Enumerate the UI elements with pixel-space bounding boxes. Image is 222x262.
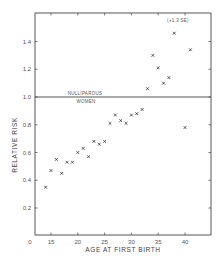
y-axis: 0.20.40.60.81.01.21.4	[23, 39, 211, 212]
x-tick-label: 15	[48, 239, 55, 245]
y-tick-label: 1.4	[23, 39, 32, 45]
y-tick-label: 1.0	[23, 94, 32, 100]
data-point	[114, 114, 117, 117]
data-point	[135, 112, 138, 115]
data-point	[71, 161, 74, 164]
reference-line-nulliparous: NULLIPAROUSWOMEN	[35, 91, 211, 104]
y-tick-label: 0.2	[23, 205, 32, 211]
plot-border	[35, 13, 211, 235]
x-tick-label: 35	[155, 239, 162, 245]
data-point	[173, 32, 176, 35]
reference-label-below: WOMEN	[76, 99, 95, 104]
x-origin-label: 0	[28, 239, 32, 245]
data-point	[44, 186, 47, 189]
y-axis-title: RELATIVE RISK	[11, 117, 18, 173]
y-tick-label: 0.6	[23, 150, 32, 156]
reference-label-above: NULLIPAROUS	[68, 91, 103, 96]
x-tick-label: 30	[128, 239, 135, 245]
data-point	[151, 54, 154, 57]
data-point	[125, 122, 128, 125]
data-point	[50, 169, 53, 172]
x-tick-label: 25	[101, 239, 108, 245]
data-point	[157, 66, 160, 69]
data-point	[98, 143, 101, 146]
data-point	[60, 172, 63, 175]
data-point	[168, 76, 171, 79]
data-point	[82, 147, 85, 150]
y-tick-label: 0.8	[23, 122, 32, 128]
data-point	[119, 119, 122, 122]
data-point	[130, 114, 133, 117]
data-points	[44, 32, 192, 189]
annotation-se: (+1.3 SE)	[167, 18, 189, 23]
scatter-chart: NULLIPAROUSWOMEN 1520253035400 0.20.40.6…	[0, 0, 222, 262]
data-point	[76, 151, 79, 154]
y-tick-label: 1.2	[23, 66, 32, 72]
data-point	[141, 108, 144, 111]
data-point	[66, 161, 69, 164]
data-point	[109, 122, 112, 125]
data-point	[146, 87, 149, 90]
data-point	[87, 155, 90, 158]
x-axis-title: AGE AT FIRST BIRTH	[85, 246, 160, 253]
x-tick-label: 20	[74, 239, 81, 245]
data-point	[55, 158, 58, 161]
data-point	[162, 82, 165, 85]
x-axis: 1520253035400	[28, 13, 189, 245]
x-tick-label: 40	[182, 239, 189, 245]
data-point	[92, 140, 95, 143]
data-point	[189, 48, 192, 51]
data-point	[103, 140, 106, 143]
y-tick-label: 0.4	[23, 177, 32, 183]
plot-frame	[35, 13, 211, 235]
data-point	[184, 126, 187, 129]
